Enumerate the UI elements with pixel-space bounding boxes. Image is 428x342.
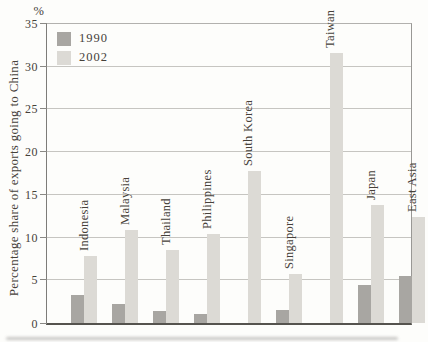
legend-item-2002: 2002 xyxy=(57,50,108,65)
legend-item-1990: 1990 xyxy=(57,31,108,46)
y-axis-tick-label-0: 0 xyxy=(8,317,38,331)
gridline-15 xyxy=(47,194,411,195)
y-axis-tick-label-15: 15 xyxy=(8,188,38,202)
y-axis-tick-label-35: 35 xyxy=(8,17,38,31)
category-label-thailand: Thailand xyxy=(159,199,173,246)
y-axis-tick-label-10: 10 xyxy=(8,231,38,245)
y-axis-tick-25 xyxy=(40,108,47,109)
bar-2002-japan xyxy=(371,205,384,323)
category-label-indonesia: Indonesia xyxy=(77,200,91,251)
bar-2002-singapore xyxy=(289,274,302,323)
bar-1990-malaysia xyxy=(112,304,125,323)
y-axis-tick-30 xyxy=(40,66,47,67)
bar-1990-indonesia xyxy=(71,295,84,323)
gridline-10 xyxy=(47,237,411,238)
y-axis-tick-10 xyxy=(40,237,47,238)
category-label-japan: Japan xyxy=(364,170,378,200)
y-axis-tick-35 xyxy=(40,23,47,24)
legend-label-2002: 2002 xyxy=(79,50,108,65)
category-label-malaysia: Malaysia xyxy=(118,177,132,225)
y-axis-tick-20 xyxy=(40,151,47,152)
plot-area: 05101520253035 IndonesiaMalaysiaThailand… xyxy=(46,23,412,325)
bar-2002-indonesia xyxy=(84,256,97,323)
bar-2002-thailand xyxy=(166,250,179,323)
bar-2002-philippines xyxy=(207,234,220,323)
y-axis-tick-5 xyxy=(40,279,47,280)
bar-2002-taiwan xyxy=(330,53,343,323)
bar-group-thailand xyxy=(153,24,179,323)
bar-2002-malaysia xyxy=(125,230,138,323)
y-axis-title: Percentage share of exports going to Chi… xyxy=(6,60,22,296)
bar-group-south-korea xyxy=(235,24,261,323)
y-axis-tick-label-30: 30 xyxy=(8,60,38,74)
y-axis-tick-0 xyxy=(40,323,47,324)
gridline-25 xyxy=(47,108,411,109)
page-scan-shadow xyxy=(6,337,398,340)
legend: 1990 2002 xyxy=(57,31,108,69)
gridline-5 xyxy=(47,279,411,280)
category-label-south-korea: South Korea xyxy=(241,100,255,166)
category-label-philippines: Philippines xyxy=(200,170,214,230)
bar-1990-singapore xyxy=(276,310,289,323)
legend-swatch-1990-icon xyxy=(57,32,71,46)
bar-2002-east-asia xyxy=(412,217,425,323)
y-axis-tick-15 xyxy=(40,194,47,195)
bar-2002-south-korea xyxy=(248,171,261,323)
gridline-20 xyxy=(47,151,411,152)
bar-1990-philippines xyxy=(194,314,207,323)
bar-group-malaysia xyxy=(112,24,138,323)
bar-1990-east-asia xyxy=(399,276,412,323)
category-label-east-asia: East Asia xyxy=(405,163,419,213)
bar-group-taiwan xyxy=(317,24,343,323)
legend-swatch-2002-icon xyxy=(57,51,71,65)
y-axis-tick-label-5: 5 xyxy=(8,273,38,287)
y-axis-tick-label-25: 25 xyxy=(8,102,38,116)
bar-group-singapore xyxy=(276,24,302,323)
category-label-taiwan: Taiwan xyxy=(323,10,337,48)
y-axis-tick-label-20: 20 xyxy=(8,145,38,159)
bar-1990-thailand xyxy=(153,311,166,323)
bar-1990-japan xyxy=(358,285,371,323)
category-label-singapore: Singapore xyxy=(282,216,296,269)
legend-label-1990: 1990 xyxy=(79,31,108,46)
scanned-bar-chart-figure: % Percentage share of exports going to C… xyxy=(0,0,428,342)
